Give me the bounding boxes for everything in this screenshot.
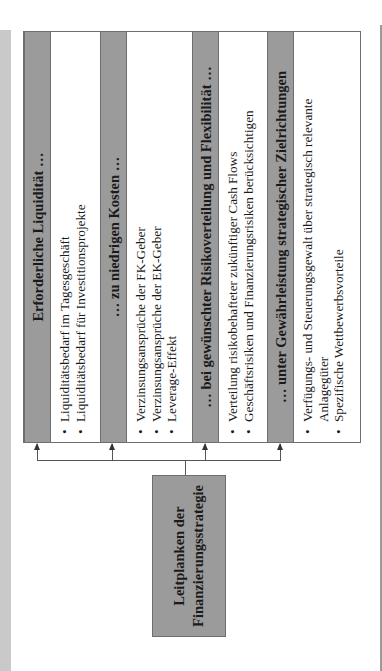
connector-stem	[185, 460, 186, 475]
connector-line	[37, 460, 281, 461]
section-content-costs: Verzinsungsansprüche der FK-Geber Verzin…	[127, 32, 192, 442]
section-content-strategy: Verfügungs- und Steuerungsgewalt über st…	[294, 32, 360, 442]
arrow-up-icon	[280, 444, 281, 460]
list-item: Leverage-Effekt	[164, 42, 180, 434]
section-content-risk: Verteilung risikobehafteter zukünftiger …	[219, 32, 267, 442]
criteria-box: Erforderliche Liquidität … Liquiditätsbe…	[23, 31, 361, 443]
section-title: … unter Gewährleistung strategischer Zie…	[273, 71, 290, 403]
list-item: Verteilung risikobehafteter zukünftiger …	[225, 42, 241, 434]
arrow-up-icon	[37, 444, 38, 460]
source-title-line2: Finanzierungsstrategie	[189, 485, 208, 627]
section-title: … zu niedrigen Kosten …	[106, 157, 123, 317]
list-item: Verzinsungsansprüche der FK-Geber	[133, 42, 149, 434]
list-item: Verzinsungsansprüche der EK-Geber	[149, 42, 165, 434]
list-item: Geschäftsrisiken und Finanzierungsrisike…	[241, 42, 257, 434]
section-title: … bei gewünschter Risikoverteilung und F…	[198, 66, 215, 407]
section-title: Erforderliche Liquidität …	[30, 152, 47, 321]
list-item: Spezifische Wettbewerbsvorteile	[331, 42, 347, 434]
source-node-guardrails: Leitplanken der Finanzierungsstrategie	[152, 475, 226, 637]
section-header-costs: … zu niedrigen Kosten …	[100, 32, 127, 442]
section-content-liquidity: Liquiditätsbedarf im Tagesgeschäft Liqui…	[51, 32, 100, 442]
arrow-up-icon	[205, 444, 206, 460]
list-item: Liquiditätsbedarf im Tagesgeschäft	[57, 42, 73, 434]
list-item: Liquiditätsbedarf für Investitionsprojek…	[73, 42, 89, 434]
section-header-strategy: … unter Gewährleistung strategischer Zie…	[267, 32, 294, 442]
section-header-risk: … bei gewünschter Risikoverteilung und F…	[192, 32, 219, 442]
source-title-line1: Leitplanken der	[170, 506, 189, 606]
list-item: Verfügungs- und Steuerungsgewalt über st…	[300, 42, 331, 434]
arrow-up-icon	[112, 444, 113, 460]
page-edge-band	[0, 30, 11, 671]
section-header-liquidity: Erforderliche Liquidität …	[24, 32, 51, 442]
